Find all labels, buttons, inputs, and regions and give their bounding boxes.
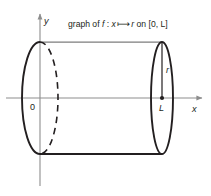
caption-domain-var: x bbox=[110, 19, 116, 29]
length-label: L bbox=[159, 103, 164, 113]
caption-on-word: on bbox=[134, 19, 148, 29]
caption-colon: : bbox=[104, 19, 111, 29]
cylinder-figure: y x 0 r L graph of f : x⟼r on [0, L] bbox=[0, 0, 211, 196]
x-axis-label: x bbox=[191, 104, 197, 114]
origin-label: 0 bbox=[30, 102, 35, 112]
y-axis-label: y bbox=[43, 16, 50, 26]
radius-label: r bbox=[166, 65, 170, 75]
caption-prefix: graph of bbox=[68, 19, 102, 29]
length-point-dot bbox=[160, 96, 164, 100]
radius-annotation bbox=[160, 42, 164, 100]
maps-to-arrow-icon: ⟼ bbox=[117, 19, 130, 29]
figure-caption: graph of f : x⟼r on [0, L] bbox=[68, 19, 168, 29]
caption-interval: [0, L] bbox=[149, 19, 168, 29]
